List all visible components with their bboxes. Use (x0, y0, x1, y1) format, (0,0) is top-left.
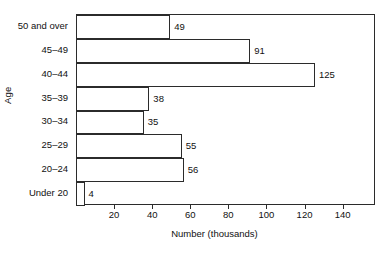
bar[interactable] (76, 182, 85, 206)
bar-value-label: 56 (184, 165, 199, 175)
y-axis-tick-label: 40–44 (42, 69, 68, 79)
bar-value-label: 4 (85, 189, 94, 199)
y-axis-tick-label: 50 and over (18, 21, 68, 31)
bar[interactable] (76, 39, 250, 63)
x-axis-tick-label: 140 (335, 210, 351, 220)
plot-area: 4565535381259149 (76, 14, 375, 205)
x-axis-tick-label: 120 (297, 210, 313, 220)
bar-row: 55 (77, 134, 374, 158)
bar-value-label: 55 (182, 142, 197, 152)
bar-row: 91 (77, 39, 374, 63)
bar-row: 38 (77, 87, 374, 111)
bar[interactable] (76, 63, 315, 87)
x-axis-title-wrap: Number (thousands) (0, 228, 391, 239)
x-axis-title: Number (thousands) (171, 228, 258, 239)
bar-row: 56 (77, 158, 374, 182)
x-axis-tick-label: 20 (109, 210, 120, 220)
y-axis-tick-labels: Under 2020–2425–2930–3435–3940–4445–4950… (0, 14, 72, 205)
bar[interactable] (76, 111, 144, 135)
bar-chart: Age Under 2020–2425–2930–3435–3940–4445–… (0, 0, 391, 258)
bar-value-label: 49 (170, 22, 185, 32)
bar[interactable] (76, 87, 149, 111)
y-axis-tick-label: 45–49 (42, 45, 68, 55)
x-axis-tick-label: 100 (259, 210, 275, 220)
bar-row: 125 (77, 63, 374, 87)
x-axis-tick-label: 60 (185, 210, 196, 220)
y-axis-tick-label: 35–39 (42, 93, 68, 103)
bar[interactable] (76, 158, 184, 182)
bar-value-label: 38 (149, 94, 164, 104)
bar-value-label: 35 (144, 118, 159, 128)
bar-value-label: 91 (250, 46, 265, 56)
x-axis-tick-label: 40 (147, 210, 158, 220)
x-axis-ticks: 20406080100120140 (76, 205, 375, 211)
bar-row: 49 (77, 15, 374, 39)
bar-value-label: 125 (315, 70, 335, 80)
x-axis-tick-label: 80 (223, 210, 234, 220)
y-axis-tick-label: 25–29 (42, 141, 68, 151)
y-axis-tick-label: Under 20 (29, 188, 68, 198)
bar[interactable] (76, 134, 182, 158)
y-axis-tick-label: 30–34 (42, 117, 68, 127)
bar-row: 35 (77, 111, 374, 135)
y-axis-tick-label: 20–24 (42, 164, 68, 174)
bar-row: 4 (77, 182, 374, 206)
bar[interactable] (76, 15, 170, 39)
